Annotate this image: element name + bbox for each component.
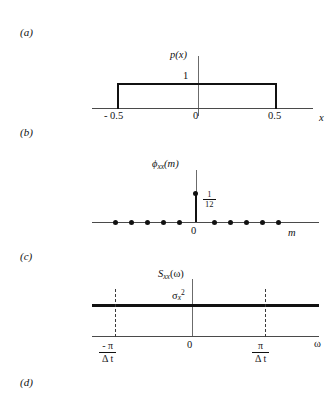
panel-a-y-axis-label: p(x) [170,49,187,60]
panel-b-x-axis [92,222,319,223]
panel-a-pdf-left-edge [117,83,119,109]
panel-c-y-axis [192,279,193,337]
panel-b-sample-dot [129,220,134,225]
panel-b-sample-dot [113,220,118,225]
panel-b-peak-denominator: 12 [203,199,216,209]
panel-c-y-axis-label: Sxx(ω) [158,268,184,281]
panel-b-y-axis-label: ϕxx(m) [152,158,179,171]
panel-b-sample-dot [212,220,217,225]
panel-label-d: (d) [20,376,33,388]
panel-label-c: (c) [20,250,32,262]
panel-c-right-band-edge [265,289,266,337]
panel-c-spectrum-line [92,304,319,307]
panel-c-x-axis [92,336,319,337]
panel-label-a: (a) [20,26,33,38]
panel-b-peak-numerator: 1 [203,190,216,199]
panel-c-y-axis-label-arg: (ω) [170,268,184,279]
panel-a-x-axis [92,108,313,109]
panel-a-xtick-zero: 0 [193,110,198,121]
panel-b-sample-dot [260,220,265,225]
panel-a-pdf-right-edge [275,83,277,109]
panel-b-x-axis-label: m [288,227,296,238]
panel-b-impulse-dot [193,191,198,196]
panel-c-left-tick-denominator: Δ t [99,352,116,365]
panel-b-sample-dot [244,220,249,225]
panel-c-right-tick-numerator: π [252,340,269,352]
panel-a-xtick-neg-half: - 0.5 [104,110,123,121]
panel-label-b: (b) [20,126,33,138]
panel-a-y-axis [198,56,199,116]
panel-b-origin-tick-label: 0 [191,225,196,236]
panel-c-left-band-edge [115,289,116,337]
panel-c-right-tick-label: π Δ t [252,340,269,364]
panel-c-y-axis-label-sub: xx [163,272,170,281]
panel-b-impulse-stem [195,194,197,222]
panel-a-x-axis-label: x [319,112,324,123]
panel-b-sample-dot [177,220,182,225]
panel-c-level-label-sup: 2 [181,288,185,297]
panel-b-peak-value-fraction: 1 12 [203,190,216,209]
panel-c-left-tick-numerator: - π [99,340,116,352]
panel-c-x-axis-label: ω [314,338,321,349]
panel-a-pdf-top-edge [117,83,277,85]
panel-c-left-tick-label: - π Δ t [99,340,116,364]
panel-b-y-axis-label-arg: (m) [164,158,179,169]
panel-c-right-tick-denominator: Δ t [252,352,269,365]
panel-b-sample-dot [161,220,166,225]
panel-a-xtick-pos-half: 0.5 [268,110,281,121]
panel-b-sample-dot [228,220,233,225]
panel-b-sample-dot [276,220,281,225]
panel-a-value-label: 1 [183,70,188,81]
panel-c-level-label: σx2 [172,288,185,302]
figure-container: (a) p(x) 1 - 0.5 0 0.5 x (b) ϕxx(m) 1 12… [0,0,335,399]
panel-b-sample-dot [145,220,150,225]
panel-c-origin-tick-label: 0 [187,339,192,350]
